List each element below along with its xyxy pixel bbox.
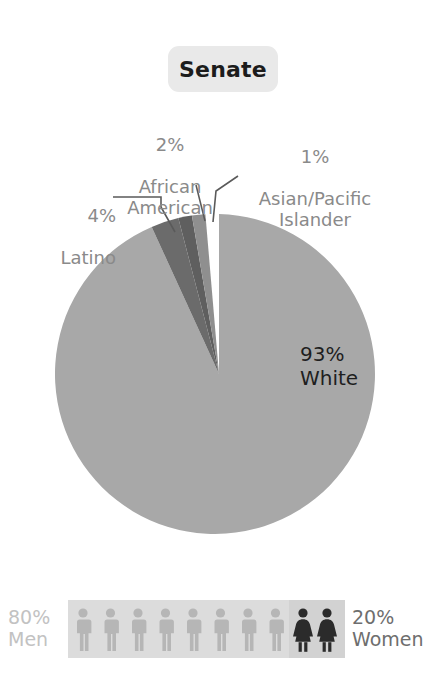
male-figure bbox=[242, 608, 256, 651]
male-figure bbox=[105, 608, 119, 651]
pie-label-african-american-pct: 2% bbox=[110, 135, 230, 156]
pictogram-women-figures bbox=[293, 608, 337, 651]
pie-label-white-pct: 93% bbox=[300, 342, 400, 366]
pictogram-figures bbox=[68, 600, 345, 658]
pie-label-white: 93% White bbox=[300, 342, 400, 390]
pie-label-latino: 4% Latino bbox=[30, 185, 116, 289]
pie-label-african-american: 2% African American bbox=[110, 114, 230, 239]
pictogram-label-men-pct: 80% bbox=[8, 606, 64, 628]
infographic-root: Senate 4% Latino 2% African American 1% … bbox=[0, 0, 435, 680]
pictogram-label-women: 20% Women bbox=[352, 606, 432, 651]
pictogram-men-figures bbox=[77, 608, 284, 651]
male-figure bbox=[215, 608, 229, 651]
pie-label-asian-pacific-islander-pct: 1% bbox=[240, 147, 390, 168]
female-figure bbox=[317, 608, 337, 651]
pictogram-label-men: 80% Men bbox=[8, 606, 64, 651]
male-figure bbox=[77, 608, 91, 651]
pictogram-label-men-name: Men bbox=[8, 628, 64, 650]
male-figure bbox=[187, 608, 201, 651]
gender-pictogram bbox=[68, 600, 345, 658]
pie-label-asian-pacific-islander: 1% Asian/Pacific Islander bbox=[240, 126, 390, 251]
female-figure bbox=[293, 608, 313, 651]
senate-race-pie-chart bbox=[0, 0, 435, 680]
pie-label-asian-pacific-islander-name: Asian/Pacific Islander bbox=[240, 189, 390, 231]
male-figure bbox=[160, 608, 174, 651]
pie-label-african-american-name: African American bbox=[110, 177, 230, 219]
pictogram-label-women-pct: 20% bbox=[352, 606, 432, 628]
male-figure bbox=[132, 608, 146, 651]
pie-label-latino-pct: 4% bbox=[30, 206, 116, 227]
pie-label-white-name: White bbox=[300, 366, 400, 390]
male-figure bbox=[270, 608, 284, 651]
pie-label-latino-name: Latino bbox=[30, 248, 116, 269]
pictogram-label-women-name: Women bbox=[352, 628, 432, 650]
